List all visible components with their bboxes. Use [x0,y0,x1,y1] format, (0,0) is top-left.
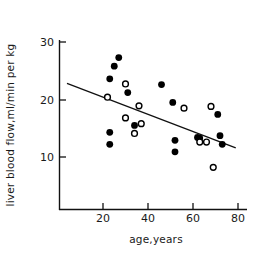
y-axis-title: liver blood flow,ml/min per kg [4,44,16,207]
data-point [197,139,203,145]
data-point [111,63,118,70]
data-point [172,148,179,155]
x-tick-label-80: 80 [231,212,245,225]
data-point [219,141,226,148]
data-point [123,81,129,87]
regression-line [67,83,236,147]
y-tick-label-20: 20 [40,94,54,107]
y-tick-label-30: 30 [40,36,54,49]
data-point [132,131,138,137]
data-point [115,54,122,61]
data-point [106,141,113,148]
x-axis-tick-labels: 20 40 60 80 [96,212,245,225]
data-point [105,94,111,100]
x-axis-ticks [103,203,238,210]
data-point [208,104,214,110]
data-points-open [105,81,217,170]
figure-container: 30 20 10 20 40 60 80 age,years liver blo… [0,0,260,254]
x-tick-label-40: 40 [141,212,155,225]
data-point [214,111,221,118]
data-point [138,121,144,127]
y-axis-tick-labels: 30 20 10 [40,36,54,164]
x-tick-label-20: 20 [96,212,110,225]
data-point [158,81,165,88]
data-point [131,122,138,129]
data-point [106,129,113,136]
data-point [106,75,113,82]
data-point [136,103,142,109]
data-point [210,164,216,170]
data-point [204,139,210,145]
data-point [124,89,131,96]
y-axis-ticks [60,42,67,157]
scatter-plot: 30 20 10 20 40 60 80 age,years liver blo… [0,0,260,254]
data-point [217,132,224,139]
data-point [172,137,179,144]
data-point [181,105,187,111]
data-point [169,99,176,106]
data-point [123,115,129,121]
y-tick-label-10: 10 [40,151,54,164]
x-axis-title: age,years [129,233,183,245]
x-tick-label-60: 60 [186,212,200,225]
